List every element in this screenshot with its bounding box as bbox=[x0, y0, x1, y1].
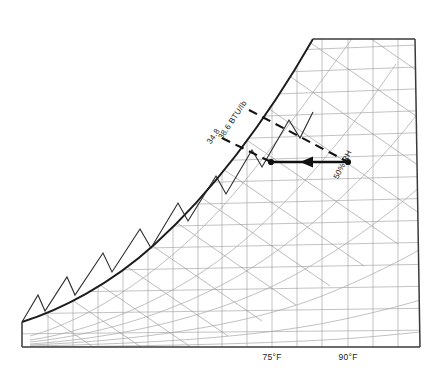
enthalpy-construction-lines bbox=[222, 110, 348, 162]
dry-bulb-gridlines bbox=[48, 0, 398, 347]
chart-boundary bbox=[22, 39, 420, 347]
state-point-left bbox=[268, 159, 274, 165]
relative-humidity-curves bbox=[30, 39, 442, 347]
enthalpy-high-label: 38.6 BTU/lb bbox=[216, 99, 249, 141]
relative-humidity-label: 50% RH bbox=[332, 149, 354, 181]
psychrometric-chart-container: 38.6 BTU/lb 34.8 50% RH 75°F 90°F bbox=[0, 0, 442, 374]
humidity-ratio-gridlines bbox=[0, 44, 442, 334]
x-tick-label-75f: 75°F bbox=[262, 352, 281, 362]
x-tick-label-90f: 90°F bbox=[338, 352, 357, 362]
psychrometric-chart: 38.6 BTU/lb 34.8 50% RH 75°F 90°F bbox=[0, 0, 442, 374]
